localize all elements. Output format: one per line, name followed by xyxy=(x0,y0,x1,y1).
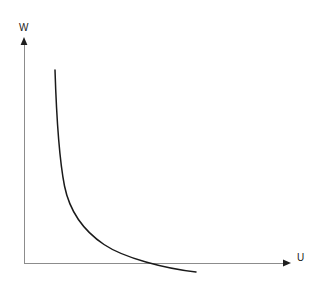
y-axis-label: W xyxy=(19,22,29,33)
arrow-right-icon xyxy=(283,260,291,267)
arrow-up-icon xyxy=(21,37,28,45)
chart-plot-svg xyxy=(0,0,313,287)
chart-canvas: W U xyxy=(0,0,313,287)
data-curve xyxy=(55,70,196,272)
x-axis-label: U xyxy=(297,252,304,263)
